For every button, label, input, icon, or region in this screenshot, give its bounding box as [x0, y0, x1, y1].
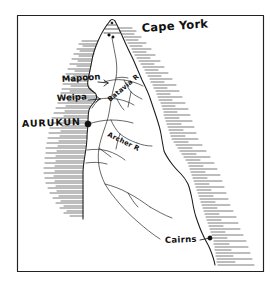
label-cairns: Cairns	[165, 234, 197, 245]
marker-aurukun[interactable]	[85, 121, 91, 127]
label-aurukun: AURUKUN	[22, 116, 81, 129]
sketch-map-canvas: Cape York Mapoon Weipa AURUKUN Batavia R…	[0, 0, 280, 289]
west-coast-hatching	[44, 41, 98, 216]
cape-tip	[104, 20, 120, 39]
river-network	[86, 38, 172, 239]
label-cape-york: Cape York	[141, 16, 208, 35]
label-mapoon: Mapoon	[61, 71, 100, 84]
map-frame	[18, 16, 264, 272]
label-weipa: Weipa	[57, 91, 88, 103]
map-illustration: Cape York Mapoon Weipa AURUKUN Batavia R…	[0, 0, 280, 289]
label-archer-river: Archer R	[106, 131, 141, 154]
marker-cairns[interactable]	[208, 236, 212, 240]
map-labels: Cape York Mapoon Weipa AURUKUN Batavia R…	[22, 16, 209, 245]
